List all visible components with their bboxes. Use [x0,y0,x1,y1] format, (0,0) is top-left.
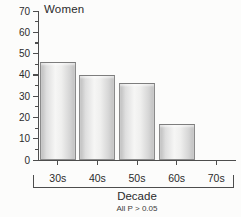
y-tick-minor [35,64,38,65]
x-axis-title: Decade [38,190,236,202]
bar-60s [159,124,195,160]
y-tick-label: 0 [2,155,30,166]
x-category-label-60s: 60s [157,172,197,184]
y-tick-label: 30 [2,91,30,102]
x-tick-40s [97,161,98,165]
y-tick-major [33,96,38,97]
y-tick-label: 40 [2,69,30,80]
y-tick-minor [35,128,38,129]
y-tick-major [33,117,38,118]
x-tick-50s [137,161,138,165]
y-tick-minor [35,149,38,150]
bar-40s [79,75,115,160]
y-tick-label: 70 [2,6,30,17]
bar-30s [40,62,76,160]
x-category-label-70s: 70s [196,172,236,184]
y-tick-major [33,32,38,33]
y-tick-major [33,138,38,139]
y-tick-label: 10 [2,133,30,144]
y-tick-major [33,11,38,12]
y-tick-minor [35,42,38,43]
y-tick-major [33,53,38,54]
x-category-label-50s: 50s [117,172,157,184]
chart-title: Women [44,3,84,15]
bar-50s [119,83,155,160]
x-tick-70s [216,161,217,165]
y-tick-label: 60 [2,27,30,38]
x-tick-30s [57,161,58,165]
bar-chart: Women 010203040506070 30s40s50s60s70s De… [0,0,241,217]
p-value-annotation: All P > 0.05 [38,204,236,213]
x-axis-bracket-line [33,187,234,188]
y-tick-label: 20 [2,112,30,123]
x-tick-60s [176,161,177,165]
x-category-label-30s: 30s [38,172,78,184]
y-tick-minor [35,21,38,22]
y-tick-major [33,74,38,75]
y-tick-major [33,160,38,161]
y-tick-minor [35,106,38,107]
x-axis-bracket-right-tick [233,175,234,187]
y-tick-label: 50 [2,48,30,59]
x-category-label-40s: 40s [77,172,117,184]
x-axis-bracket-left-tick [33,175,34,187]
y-tick-minor [35,85,38,86]
